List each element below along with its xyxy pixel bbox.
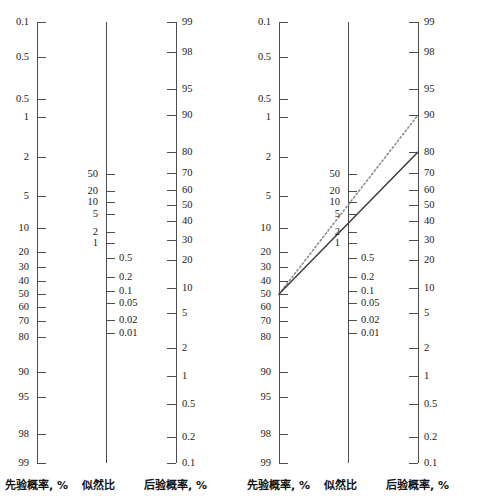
- tick-label: 40: [213, 276, 271, 287]
- tick-label: 0.2: [424, 432, 437, 443]
- tick-mark: [167, 22, 176, 23]
- tick-mark: [279, 307, 288, 308]
- tick-label: 98: [0, 429, 29, 440]
- posterior-probability-axis-line: [418, 22, 419, 463]
- tick-mark: [348, 277, 357, 278]
- tick-mark: [167, 313, 176, 314]
- tick-mark: [167, 348, 176, 349]
- tick-label: 50: [182, 200, 193, 211]
- tick-mark: [106, 174, 115, 175]
- tick-label: 0.1: [424, 458, 437, 469]
- tick-mark: [167, 404, 176, 405]
- tick-label: 0.05: [361, 298, 379, 309]
- tick-label: 90: [213, 367, 271, 378]
- tick-label: 50: [424, 200, 435, 211]
- tick-mark: [37, 372, 46, 373]
- tick-label: 0.1: [0, 17, 29, 28]
- tick-label: 30: [213, 262, 271, 273]
- tick-label: 1: [213, 112, 271, 123]
- tick-label: 0.1: [361, 286, 374, 297]
- tick-mark: [167, 173, 176, 174]
- tick-label: 0.2: [119, 272, 132, 283]
- tick-label: 50: [288, 169, 340, 180]
- tick-label: 0.5: [424, 399, 437, 410]
- tick-mark: [106, 191, 115, 192]
- tick-mark: [167, 190, 176, 191]
- tick-label: 5: [288, 209, 340, 220]
- tick-label: 0.5: [182, 399, 195, 410]
- tick-mark: [106, 202, 115, 203]
- tick-label: 0.5: [0, 52, 29, 63]
- tick-label: 5: [213, 191, 271, 202]
- tick-mark: [167, 115, 176, 116]
- tick-mark: [279, 228, 288, 229]
- tick-label: 0.02: [361, 315, 379, 326]
- tick-mark: [348, 214, 357, 215]
- tick-mark: [279, 22, 288, 23]
- tick-mark: [106, 277, 115, 278]
- tick-label: 2: [46, 227, 98, 238]
- tick-mark: [409, 22, 418, 23]
- tick-mark: [409, 404, 418, 405]
- tick-label: 0.1: [182, 458, 195, 469]
- tick-label: 60: [0, 302, 29, 313]
- tick-label: 1: [182, 371, 187, 382]
- tick-mark: [37, 157, 46, 158]
- tick-mark: [167, 205, 176, 206]
- tick-mark: [167, 52, 176, 53]
- tick-mark: [409, 173, 418, 174]
- tick-label: 0.5: [0, 94, 29, 105]
- tick-mark: [348, 232, 357, 233]
- tick-label: 50: [46, 169, 98, 180]
- tick-label: 0.01: [119, 328, 137, 339]
- tick-label: 30: [0, 262, 29, 273]
- tick-mark: [279, 267, 288, 268]
- tick-mark: [279, 372, 288, 373]
- tick-label: 20: [46, 186, 98, 197]
- tick-label: 99: [0, 458, 29, 469]
- tick-mark: [106, 291, 115, 292]
- tick-label: 1: [46, 238, 98, 249]
- tick-label: 0.5: [213, 52, 271, 63]
- tick-mark: [409, 260, 418, 261]
- tick-label: 90: [182, 110, 193, 121]
- tick-label: 2: [182, 343, 187, 354]
- tick-label: 98: [213, 429, 271, 440]
- tick-label: 10: [46, 197, 98, 208]
- tick-mark: [409, 288, 418, 289]
- tick-label: 80: [213, 332, 271, 343]
- tick-label: 0.05: [119, 298, 137, 309]
- tick-label: 5: [182, 308, 187, 319]
- tick-label: 0.2: [361, 272, 374, 283]
- tick-mark: [37, 267, 46, 268]
- tick-mark: [279, 294, 288, 295]
- tick-label: 60: [182, 185, 193, 196]
- tick-mark: [167, 463, 176, 464]
- tick-mark: [37, 57, 46, 58]
- tick-mark: [409, 190, 418, 191]
- tick-label: 10: [182, 283, 193, 294]
- tick-label: 50: [213, 289, 271, 300]
- tick-label: 90: [424, 110, 435, 121]
- tick-mark: [348, 202, 357, 203]
- tick-mark: [279, 196, 288, 197]
- posterior-probability-caption: 后验概率, %: [386, 480, 449, 492]
- tick-label: 2: [424, 343, 429, 354]
- tick-label: 0.5: [361, 253, 374, 264]
- tick-mark: [106, 243, 115, 244]
- tick-mark: [409, 221, 418, 222]
- tick-mark: [279, 463, 288, 464]
- tick-mark: [409, 437, 418, 438]
- tick-mark: [37, 294, 46, 295]
- tick-label: 10: [288, 197, 340, 208]
- tick-mark: [37, 196, 46, 197]
- tick-mark: [409, 52, 418, 53]
- tick-label: 50: [0, 289, 29, 300]
- tick-mark: [167, 89, 176, 90]
- tick-label: 1: [288, 238, 340, 249]
- tick-label: 0.5: [119, 253, 132, 264]
- tick-label: 70: [0, 316, 29, 327]
- tick-mark: [279, 157, 288, 158]
- tick-mark: [409, 115, 418, 116]
- tick-mark: [409, 205, 418, 206]
